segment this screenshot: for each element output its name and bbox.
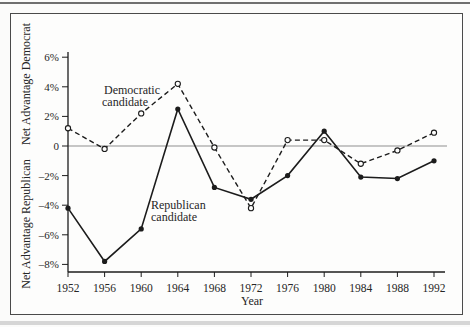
filled-circle-marker	[358, 174, 363, 179]
open-circle-marker	[322, 137, 327, 142]
open-circle-marker	[358, 161, 363, 166]
filled-circle-marker	[322, 129, 327, 134]
x-tick-label: 1964	[166, 282, 189, 294]
filled-circle-marker	[285, 173, 290, 178]
y-tick-label: 2%	[44, 110, 59, 122]
y-axis-title-democrat: Net Advantage Democrat	[19, 22, 33, 145]
open-circle-marker	[431, 130, 436, 135]
x-tick-label: 1968	[203, 282, 226, 294]
y-tick-label: –2%	[38, 170, 59, 182]
open-circle-marker	[102, 146, 107, 151]
y-axis-title-republican: Net Advantage Republican	[19, 159, 33, 288]
filled-circle-marker	[139, 226, 144, 231]
filled-circle-marker	[431, 158, 436, 163]
filled-circle-marker	[65, 206, 70, 211]
x-tick-label: 1992	[423, 282, 446, 294]
x-axis-title: Year	[241, 294, 263, 308]
open-circle-marker	[175, 81, 180, 86]
open-circle-marker	[395, 148, 400, 153]
filled-circle-marker	[248, 197, 253, 202]
y-tick-label: 0	[54, 140, 60, 152]
y-tick-label: 6%	[44, 51, 59, 63]
y-tick-label: –4%	[38, 199, 59, 211]
x-tick-label: 1976	[276, 282, 299, 294]
plot-area: 6%4%2%0–2%–4%–6%–8%195219561960196419681…	[38, 51, 447, 294]
x-tick-label: 1988	[386, 282, 409, 294]
y-tick-label: –6%	[38, 229, 59, 241]
x-tick-label: 1972	[240, 282, 263, 294]
filled-circle-marker	[395, 176, 400, 181]
annotation-republican-candidate: Republican candidate	[151, 198, 209, 224]
figure-page: 6%4%2%0–2%–4%–6%–8%195219561960196419681…	[0, 0, 470, 327]
x-tick-label: 1956	[93, 282, 116, 294]
x-tick-label: 1980	[313, 282, 336, 294]
y-tick-label: –8%	[38, 258, 59, 270]
annotation-democratic-candidate: Democratic candidate	[102, 83, 163, 109]
open-circle-marker	[212, 145, 217, 150]
chart-svg: 6%4%2%0–2%–4%–6%–8%195219561960196419681…	[0, 0, 470, 327]
x-tick-label: 1960	[130, 282, 153, 294]
filled-circle-marker	[102, 259, 107, 264]
open-circle-marker	[248, 206, 253, 211]
open-circle-marker	[285, 137, 290, 142]
open-circle-marker	[65, 126, 70, 131]
x-tick-label: 1952	[57, 282, 80, 294]
open-circle-marker	[139, 111, 144, 116]
filled-circle-marker	[212, 185, 217, 190]
bottom-shadow-rule	[0, 321, 470, 325]
x-tick-label: 1984	[349, 282, 372, 294]
filled-circle-marker	[175, 106, 180, 111]
y-tick-label: 4%	[44, 81, 59, 93]
